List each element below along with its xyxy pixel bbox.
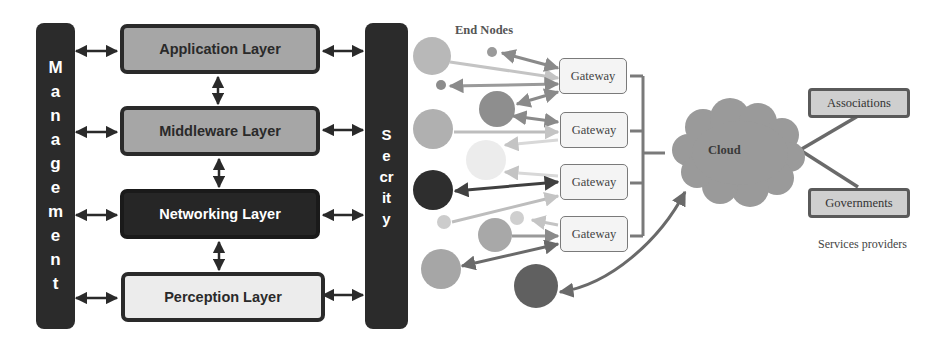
associations-box: Associations xyxy=(808,88,910,118)
governments-box: Governments xyxy=(808,188,910,218)
application-layer-label: Application Layer xyxy=(159,41,281,57)
gateway-2: Gateway xyxy=(560,112,628,148)
management-bar: M a n a g e m e n t xyxy=(36,23,75,329)
middleware-layer: Middleware Layer xyxy=(120,106,320,156)
end-node-circles xyxy=(413,37,558,308)
security-bar: S e cr it y xyxy=(365,23,408,329)
application-layer: Application Layer xyxy=(120,24,320,74)
security-letters: S e cr it y xyxy=(379,124,393,229)
end-nodes-label: End Nodes xyxy=(455,23,513,38)
middleware-layer-label: Middleware Layer xyxy=(159,123,281,139)
gateway-1: Gateway xyxy=(559,58,627,94)
services-providers-label: Services providers xyxy=(818,237,907,252)
perception-layer: Perception Layer xyxy=(121,272,325,322)
gateway-3: Gateway xyxy=(560,164,628,200)
gateway-4: Gateway xyxy=(560,216,628,252)
management-letters: M a n a g e m e n t xyxy=(48,56,63,296)
networking-layer-label: Networking Layer xyxy=(159,206,281,222)
cloud-label: Cloud xyxy=(708,143,741,158)
networking-layer: Networking Layer xyxy=(120,189,320,239)
perception-layer-label: Perception Layer xyxy=(164,289,282,305)
